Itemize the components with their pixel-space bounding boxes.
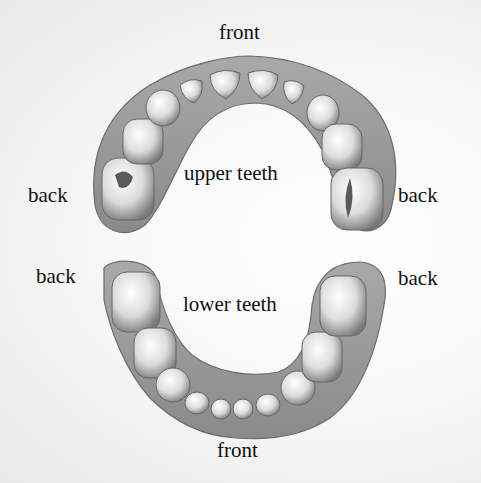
tooth-canine [156,368,190,402]
tooth-incisor [185,392,209,414]
upper-back-left-label: back [28,185,68,206]
tooth-molar [331,168,383,230]
upper-front-label: front [219,22,260,43]
lower-arch [104,261,385,438]
tooth-molar [102,158,154,220]
tooth-molar [112,272,160,332]
teeth-diagram: front upper teeth back back back back lo… [0,0,481,483]
teeth-illustration [0,0,481,483]
tooth-canine [146,90,180,126]
tooth-incisor [211,399,231,419]
tooth-incisor [233,399,253,419]
upper-back-right-label: back [398,185,438,206]
tooth-premolar [322,124,362,170]
lower-front-label: front [217,440,258,461]
upper-teeth-label: upper teeth [184,163,278,184]
lower-back-left-label: back [36,266,76,287]
tooth-molar [320,276,366,336]
upper-arch [94,56,396,232]
lower-back-right-label: back [398,268,438,289]
tooth-premolar [302,332,342,382]
tooth-incisor [256,394,280,416]
tooth-premolar [123,119,163,164]
lower-teeth-label: lower teeth [183,294,277,315]
